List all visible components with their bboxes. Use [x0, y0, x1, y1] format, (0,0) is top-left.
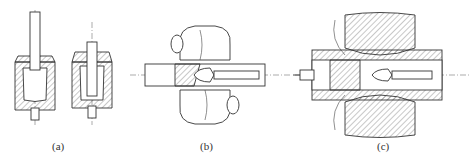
- caption-a: (a): [52, 140, 64, 152]
- panel-b-rolls: [130, 26, 290, 124]
- diagram-svg: [0, 0, 475, 162]
- diagram-canvas: (a) (b) (c): [0, 0, 475, 162]
- caption-b: (b): [200, 140, 213, 152]
- panel-a-die-right: [72, 22, 112, 125]
- panel-c-section: [293, 13, 470, 138]
- panel-a-die-left: [15, 10, 55, 125]
- caption-c: (c): [377, 140, 389, 152]
